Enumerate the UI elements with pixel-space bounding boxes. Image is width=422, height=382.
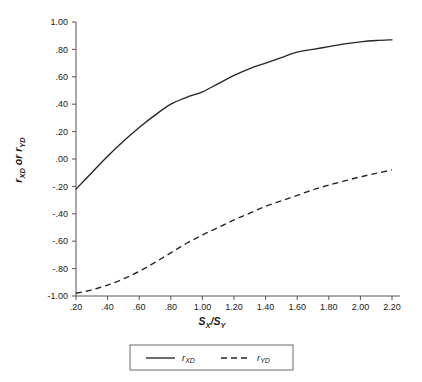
x-title-s1: S bbox=[199, 315, 206, 327]
x-tick-label: 2.20 bbox=[383, 302, 401, 312]
y-tick-label: 1.00 bbox=[50, 17, 68, 27]
legend: rXD rYD bbox=[130, 345, 293, 370]
y-tick-label: .60 bbox=[55, 72, 68, 82]
svg-text:rXD or rYD: rXD or rYD bbox=[12, 137, 27, 183]
y-axis-ticks: 1.00.80.60.40.20.00-.20-.40-.60-.80-1.00 bbox=[47, 17, 76, 301]
series-line-rxd bbox=[76, 40, 392, 189]
x-title-s2: S bbox=[213, 315, 220, 327]
x-tick-label: 1.40 bbox=[257, 302, 275, 312]
y-tick-label: -.60 bbox=[52, 236, 68, 246]
legend-sub2: YD bbox=[260, 357, 270, 364]
x-title-sub2: Y bbox=[220, 321, 226, 330]
x-tick-label: 1.80 bbox=[320, 302, 338, 312]
chart-svg: 1.00.80.60.40.20.00-.20-.40-.60-.80-1.00… bbox=[0, 0, 422, 382]
figure-container: 1.00.80.60.40.20.00-.20-.40-.60-.80-1.00… bbox=[0, 0, 422, 382]
x-axis-ticks: .20.40.60.801.001.201.401.601.802.002.20 bbox=[70, 296, 401, 312]
y-tick-label: .40 bbox=[55, 99, 68, 109]
y-title-conn: or bbox=[12, 152, 24, 168]
y-tick-label: -.40 bbox=[52, 209, 68, 219]
x-tick-label: .40 bbox=[101, 302, 114, 312]
axes-group bbox=[76, 22, 400, 296]
x-tick-label: .20 bbox=[70, 302, 83, 312]
x-tick-label: 1.00 bbox=[194, 302, 212, 312]
y-tick-label: .80 bbox=[55, 45, 68, 55]
svg-text:SX/SY: SX/SY bbox=[199, 315, 227, 330]
x-tick-label: 1.20 bbox=[225, 302, 243, 312]
y-title-sub2: YD bbox=[18, 137, 27, 148]
x-axis-title: SX/SY bbox=[199, 315, 227, 330]
y-axis-title: rXD or rYD bbox=[12, 137, 27, 183]
y-title-sub1: XD bbox=[18, 168, 27, 180]
legend-sub1: XD bbox=[184, 357, 195, 364]
y-tick-label: -.20 bbox=[52, 182, 68, 192]
y-tick-label: .20 bbox=[55, 127, 68, 137]
x-tick-label: 2.00 bbox=[352, 302, 370, 312]
series-line-ryd bbox=[76, 170, 392, 293]
data-series-group bbox=[76, 40, 392, 293]
x-tick-label: .80 bbox=[165, 302, 178, 312]
y-tick-label: -1.00 bbox=[47, 291, 68, 301]
y-tick-label: -.80 bbox=[52, 264, 68, 274]
x-tick-label: 1.60 bbox=[288, 302, 306, 312]
y-tick-label: .00 bbox=[55, 154, 68, 164]
x-tick-label: .60 bbox=[133, 302, 146, 312]
